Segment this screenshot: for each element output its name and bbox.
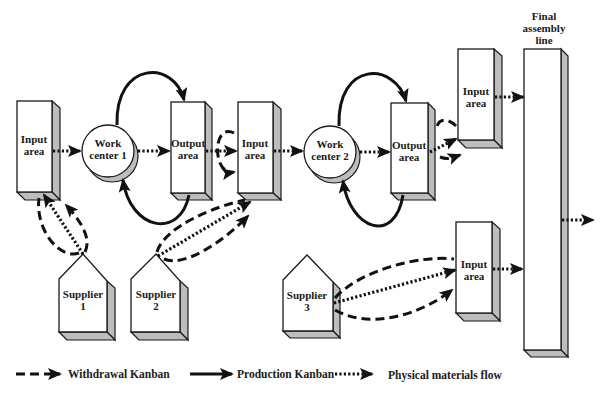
final-assembly-title3: line [535, 34, 552, 46]
work-center-2-label: Work [317, 138, 345, 150]
supplier-1-label: Supplier [63, 288, 103, 300]
final-assembly-title: Final [532, 10, 556, 22]
final-assembly-title2: assembly [523, 22, 566, 34]
supplier-2: Supplier 2 [131, 254, 188, 340]
input-area-1-label: Input [21, 133, 48, 145]
output-area-1-label2: area [178, 149, 199, 161]
work-center-1: Work center 1 [82, 125, 138, 182]
final-assembly-line: Final assembly line [523, 10, 568, 357]
legend-physical-label: Physical materials flow [388, 369, 502, 382]
legend-withdrawal: Withdrawal Kanban [16, 368, 170, 380]
input-area-4: Input area [456, 222, 500, 321]
legend: Withdrawal Kanban Production Kanban Phys… [16, 368, 502, 382]
work-center-1-label: Work [95, 137, 123, 149]
kanban-diagram: Input area Work center 1 Output area Inp… [0, 0, 608, 396]
input-area-1-label2: area [24, 145, 45, 157]
input-area-4-label: Input [461, 258, 488, 270]
supplier-3: Supplier 3 [283, 255, 340, 338]
work-center-1-label2: center 1 [89, 149, 126, 161]
legend-production: Production Kanban [190, 368, 335, 380]
input-area-3-label: Input [463, 85, 490, 97]
work-center-2-label2: center 2 [311, 150, 349, 162]
supplier-2-label2: 2 [153, 300, 159, 312]
input-area-4-label2: area [464, 270, 485, 282]
output-area-1-label: Output [171, 137, 206, 149]
supplier-2-label: Supplier [136, 288, 176, 300]
input-area-2-label2: area [245, 149, 266, 161]
supplier-1: Supplier 1 [59, 254, 115, 340]
legend-physical: Physical materials flow [335, 369, 502, 382]
supplier-3-label2: 3 [304, 301, 310, 313]
supplier-1-label2: 1 [80, 300, 86, 312]
output-area-2-label: Output [392, 139, 427, 151]
supplier-3-label: Supplier [287, 289, 327, 301]
input-area-3-label2: area [466, 97, 487, 109]
work-center-2: Work center 2 [304, 126, 360, 183]
legend-withdrawal-label: Withdrawal Kanban [68, 368, 170, 380]
output-area-2: Output area [391, 103, 435, 200]
output-area-2-label2: area [399, 151, 420, 163]
input-area-2-label: Input [242, 137, 269, 149]
output-area-1: Output area [171, 102, 212, 200]
legend-production-label: Production Kanban [237, 368, 335, 380]
